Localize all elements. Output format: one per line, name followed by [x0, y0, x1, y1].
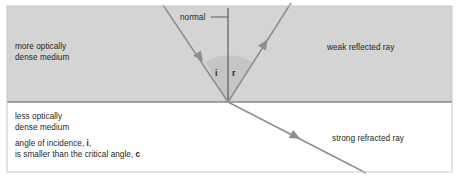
label-angle-of-incidence: i — [215, 68, 217, 79]
critical-note-symbol-c: c — [136, 150, 141, 159]
label-less-optically-dense-medium: less optically dense medium — [15, 112, 69, 133]
label-normal: normal — [180, 13, 205, 24]
label-weak-reflected-ray: weak reflected ray — [327, 43, 394, 54]
label-more-optically-dense-medium: more optically dense medium — [15, 42, 69, 63]
label-angle-of-reflection: r — [232, 68, 235, 79]
label-strong-refracted-ray: strong refracted ray — [332, 134, 404, 145]
label-critical-angle-note: angle of incidence, i, is smaller than t… — [15, 139, 140, 160]
critical-note-line1-pre: angle of incidence, — [15, 139, 87, 148]
critical-note-line1-post: , — [89, 139, 91, 148]
refraction-diagram: more optically dense medium less optical… — [0, 0, 465, 179]
critical-note-line2-pre: is smaller than the critical angle, — [15, 150, 136, 159]
